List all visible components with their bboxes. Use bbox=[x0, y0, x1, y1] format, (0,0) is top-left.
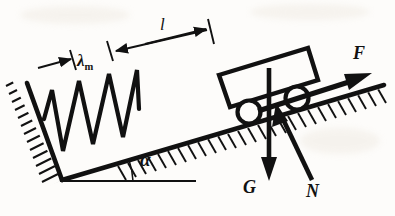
cart-wheel-rear bbox=[238, 101, 261, 124]
angle-arc-alpha bbox=[129, 160, 133, 181]
label-lambda-subscript: m bbox=[85, 61, 93, 72]
diagram-canvas bbox=[0, 0, 395, 216]
zigzag-spring bbox=[44, 70, 139, 151]
dimension-lambda-m bbox=[38, 41, 113, 70]
label-lambda-glyph: λ bbox=[77, 51, 85, 70]
label-force-F: F bbox=[353, 44, 365, 62]
label-angle-alpha: α bbox=[140, 150, 151, 169]
inclined-surface bbox=[62, 85, 386, 180]
dimension-l bbox=[116, 19, 214, 51]
physics-diagram-figure: λm l α F G N bbox=[0, 0, 395, 216]
force-vector-N bbox=[272, 103, 312, 180]
label-force-N: N bbox=[306, 182, 319, 200]
label-length: l bbox=[160, 16, 165, 33]
label-spring-extension: λm bbox=[77, 52, 93, 73]
label-force-G: G bbox=[243, 178, 256, 196]
